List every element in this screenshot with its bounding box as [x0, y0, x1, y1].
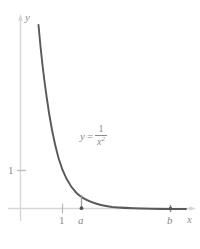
x-axis-arrow-icon	[190, 206, 197, 211]
y-axis-arrow-icon	[18, 14, 23, 21]
equation-fraction: 1 x2	[95, 124, 107, 147]
equation-denominator-exponent: 2	[102, 135, 106, 143]
x-tick-label-1: 1	[59, 215, 65, 226]
function-plot-figure: y x 1 1 a b y = 1 x2	[0, 0, 200, 249]
equation-equals-sign: =	[87, 130, 93, 142]
x-axis-label: x	[187, 214, 192, 225]
y-tick-label-1: 1	[8, 165, 14, 176]
equation-lhs: y	[80, 130, 85, 142]
point-marker-a	[80, 206, 84, 210]
equation-numerator: 1	[97, 124, 106, 135]
x-tick-label-a: a	[78, 215, 84, 226]
equation-annotation: y = 1 x2	[80, 124, 107, 147]
y-axis-label: y	[25, 12, 30, 23]
equation-denominator: x2	[95, 136, 107, 147]
point-marker-b	[169, 207, 172, 210]
x-tick-label-b: b	[167, 215, 173, 226]
curve-y-equals-one-over-x-squared	[39, 25, 187, 209]
